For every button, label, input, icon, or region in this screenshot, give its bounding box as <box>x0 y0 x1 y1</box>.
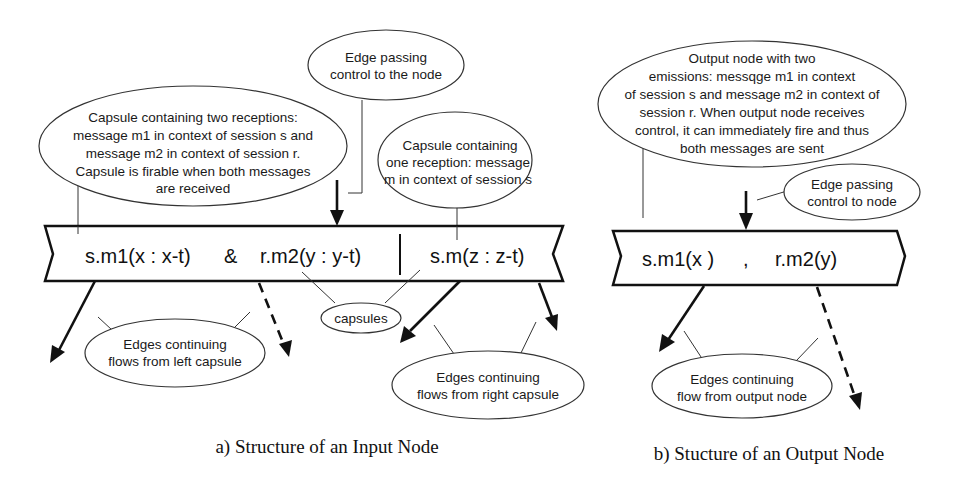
note-edge-in-line2: control to the node <box>330 67 442 82</box>
note-output-edges: Edges continuing flow from output node <box>652 331 832 418</box>
note-edge-in-ellipse <box>308 30 464 100</box>
output-edge-solid <box>668 286 704 340</box>
output-separator: , <box>743 248 749 270</box>
note-output-edges-line1: Edges continuing <box>690 372 794 387</box>
edge-right-capsule-2 <box>539 283 552 317</box>
note-left-capsule-line5: are received <box>156 181 230 196</box>
note-output-edge-in-ellipse <box>784 164 920 220</box>
note-right-capsule: Capsule containing one reception: messag… <box>378 112 532 208</box>
note-left-capsule-line1: Capsule containing two receptions: <box>88 110 297 125</box>
capsule-right-reception: s.m(z : z-t) <box>430 245 524 267</box>
note-right-capsule-line2: one reception: message <box>386 155 530 170</box>
note-right-edges: Edges continuing flows from right capsul… <box>392 322 584 419</box>
note-right-edges-line1: Edges continuing <box>436 370 540 385</box>
note-output-edges-line2: flow from output node <box>677 389 807 404</box>
note-output-edge-in-line2: control to node <box>807 194 896 209</box>
caption-input-node: a) Structure of an Input Node <box>215 436 438 458</box>
note-right-capsule-line1: Capsule containing <box>403 138 518 153</box>
note-edge-in: Edge passing control to the node <box>308 30 464 100</box>
note-output-edge-in-line1: Edge passing <box>811 177 893 192</box>
edge-right-capsule-1 <box>410 281 460 331</box>
diagram-canvas: Edge passing control to the node Capsule… <box>0 0 954 497</box>
note-right-edges-line2: flows from right capsule <box>417 387 559 402</box>
output-emission2: r.m2(y) <box>775 248 837 270</box>
note-output-node-line6: both messages are sent <box>680 141 824 156</box>
caption-output-node: b) Stucture of an Output Node <box>654 443 885 465</box>
note-left-capsule-line2: message m1 in context of session s and <box>73 128 313 143</box>
note-capsules-text: capsules <box>334 311 388 326</box>
note-left-edges: Edges continuing flows from left capsule <box>85 312 265 387</box>
note-left-capsule: Capsule containing two receptions: messa… <box>39 86 347 206</box>
note-output-node: Output node with two emissions: messqge … <box>598 41 906 167</box>
note-output-node-line4: session r. When output node receives <box>639 105 864 120</box>
note-right-edges-ellipse <box>392 351 584 419</box>
note-output-edge-in: Edge passing control to node <box>757 164 920 220</box>
capsule-left-reception1: s.m1(x : x-t) <box>85 245 191 267</box>
note-right-capsule-line3: m in context of session s <box>384 172 532 187</box>
note-left-edges-line2: flows from left capsule <box>108 354 242 369</box>
note-left-edges-ellipse <box>85 319 265 387</box>
note-left-edges-line1: Edges continuing <box>123 337 227 352</box>
input-edge-in <box>330 180 344 226</box>
note-output-node-line1: Output node with two <box>689 51 816 66</box>
leader-edge-in <box>348 100 362 193</box>
input-node-diagram: Edge passing control to the node Capsule… <box>39 30 584 458</box>
note-left-capsule-line4: Capsule is firable when both messages <box>76 164 311 179</box>
note-edge-in-line1: Edge passing <box>345 50 427 65</box>
output-node: s.m1(x ) , r.m2(y) <box>613 231 905 285</box>
output-node-diagram: Output node with two emissions: messqge … <box>598 41 920 465</box>
note-left-capsule-line3: message m2 in context of session r. <box>86 146 301 161</box>
output-emission1: s.m1(x ) <box>642 248 714 270</box>
capsule-left-operator: & <box>224 245 238 267</box>
note-output-node-line2: emissions: messqge m1 in context <box>649 69 856 84</box>
edge-left-capsule-dashed <box>259 283 284 345</box>
output-edge-in <box>739 191 753 230</box>
capsule-left-reception2: r.m2(y : y-t) <box>260 245 361 267</box>
note-output-node-line3: of session s and message m2 in context o… <box>624 87 879 102</box>
input-node: s.m1(x : x-t) & r.m2(y : y-t) s.m(z : z-… <box>45 226 563 281</box>
note-output-node-line5: control, it can immediately fire and thu… <box>635 123 869 138</box>
